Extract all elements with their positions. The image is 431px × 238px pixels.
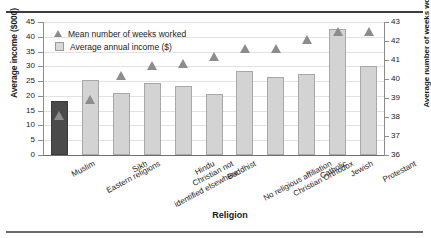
y-axis-right-tick (384, 22, 389, 23)
bar-christian-orthodox (267, 77, 284, 155)
marker-no-religious-affiliation (240, 44, 250, 53)
y-axis-right-tick-label: 38 (391, 112, 411, 121)
marker-eastern-religions (85, 95, 95, 104)
bar-protestant (360, 66, 377, 155)
y-axis-left-tick (38, 96, 43, 97)
y-axis-right-tick (384, 41, 389, 42)
triangle-marker-icon (54, 30, 62, 37)
bar-catholic (298, 74, 315, 155)
marker-christian-not-identified-elsewhere (147, 61, 157, 70)
y-axis-left-tick (38, 52, 43, 53)
y-axis-right-tick (384, 117, 389, 118)
y-axis-right-tick-label: 37 (391, 131, 411, 140)
y-axis-right-tick-label: 39 (391, 93, 411, 102)
y-axis-left-tick (38, 125, 43, 126)
marker-christian-orthodox (271, 44, 281, 53)
y-axis-right-title: Average number of weeks worked (422, 0, 431, 115)
y-axis-right-tick (384, 98, 389, 99)
x-axis-label-line: Protestant (381, 159, 418, 185)
marker-buddhist (209, 52, 219, 61)
y-axis-right-tick-label: 41 (391, 55, 411, 64)
marker-catholic (302, 35, 312, 44)
bottom-divider (6, 231, 423, 233)
legend-label: Average annual income ($) (70, 42, 172, 52)
x-axis-label-line: Muslim (70, 159, 97, 179)
top-divider (6, 11, 423, 13)
y-axis-right-tick-label: 36 (391, 150, 411, 159)
bar-buddhist (206, 94, 223, 155)
bar-muslim (51, 101, 68, 155)
marker-hindu (178, 59, 188, 68)
y-axis-right-tick-label: 40 (391, 74, 411, 83)
y-axis-left-tick-label: 10 (13, 120, 35, 129)
legend-item-annual-income: Average annual income ($) (54, 40, 186, 53)
figure-caption (8, 0, 423, 7)
gridline (44, 22, 384, 23)
bar-eastern-religions (82, 80, 99, 155)
x-axis-title: Religion (150, 210, 310, 220)
chart-legend: Mean number of weeks workedAverage annua… (54, 27, 186, 53)
marker-muslim (54, 111, 64, 120)
square-marker-icon (55, 42, 64, 51)
y-axis-left-tick (38, 111, 43, 112)
x-axis-label-protestant: Protestant (381, 159, 418, 185)
legend-label: Mean number of weeks worked (68, 29, 186, 39)
y-axis-right-tick (384, 155, 389, 156)
y-axis-left-tick-label: 35 (13, 47, 35, 56)
y-axis-left-tick (38, 66, 43, 67)
y-axis-right-tick (384, 60, 389, 61)
y-axis-left-tick-label: 5 (13, 135, 35, 144)
y-axis-left-tick (38, 37, 43, 38)
y-axis-left-tick-label: 15 (13, 106, 35, 115)
marker-sikh (116, 71, 126, 80)
y-axis-left-tick-label: 25 (13, 76, 35, 85)
marker-jewish (333, 27, 343, 36)
marker-protestant (364, 27, 374, 36)
y-axis-left-tick (38, 22, 43, 23)
bar-no-religious-affiliation (236, 71, 253, 155)
y-axis-right-tick (384, 79, 389, 80)
y-axis-left-tick-label: 20 (13, 91, 35, 100)
x-axis-label-muslim: Muslim (70, 159, 97, 179)
bar-sikh (113, 93, 130, 155)
y-axis-left-tick-label: 30 (13, 61, 35, 70)
bar-hindu (175, 86, 192, 155)
y-axis-left-tick (38, 81, 43, 82)
y-axis-right-tick-label: 42 (391, 36, 411, 45)
y-axis-right-tick (384, 136, 389, 137)
legend-item-weeks-worked: Mean number of weeks worked (54, 27, 186, 40)
y-axis-left-tick-label: 0 (13, 150, 35, 159)
y-axis-right-tick-label: 43 (391, 17, 411, 26)
y-axis-left-tick-label: 45 (13, 17, 35, 26)
bar-christian-not-identified-elsewhere (144, 83, 161, 155)
y-axis-left-tick (38, 140, 43, 141)
y-axis-left-tick (38, 155, 43, 156)
bar-jewish (329, 29, 346, 155)
y-axis-left-tick-label: 40 (13, 32, 35, 41)
